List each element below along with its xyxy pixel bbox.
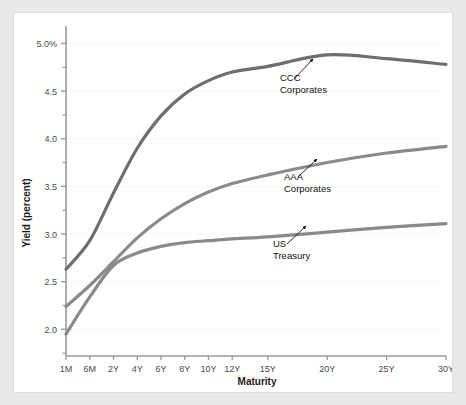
x-tick-label: 30Y [438,364,452,374]
annotation-label: Treasury [273,250,310,261]
x-tick-label: 4Y [132,364,143,374]
annotation-label: US [273,238,286,249]
series-lines [66,55,446,334]
y-tick-label: 5.0% [36,39,57,49]
y-tick-label: 4.5 [44,87,57,97]
x-axis-label: Maturity [238,376,277,387]
yield-curve-chart: 5.0%4.54.03.53.02.52.0 1M6M2Y4Y6Y8Y10Y12… [14,13,452,392]
annotation-label: Corporates [284,183,331,194]
chart-card: 5.0%4.54.03.53.02.52.0 1M6M2Y4Y6Y8Y10Y12… [14,13,452,392]
x-tick-label: 8Y [179,364,190,374]
annotations: CCCCorporatesAAACorporatesUSTreasury [273,59,331,261]
y-tick-label: 4.0 [44,134,57,144]
x-tick-label: 6Y [155,364,166,374]
x-tick-label: 1M [60,364,73,374]
screenshot-root: 5.0%4.54.03.53.02.52.0 1M6M2Y4Y6Y8Y10Y12… [0,0,466,405]
x-tick-label: 10Y [200,364,216,374]
x-tick-label: 2Y [108,364,119,374]
y-tick-labels: 5.0%4.54.03.53.02.52.0 [36,39,57,335]
x-tick-labels: 1M6M2Y4Y6Y8Y10Y12Y15Y20Y25Y30Y [60,364,452,374]
y-tick-label: 2.5 [44,277,57,287]
y-tick-label: 3.0 [44,230,57,240]
x-tick-label: 25Y [379,364,395,374]
y-tick-label: 2.0 [44,325,57,335]
series-line [66,224,446,335]
x-tick-label: 6M [83,364,96,374]
annotation-label: AAA [284,171,304,182]
x-tick-label: 12Y [224,364,240,374]
y-axis-label: Yield (percent) [21,178,32,247]
annotation-label: Corporates [280,84,327,95]
x-axis [66,356,446,360]
grid-lines [66,43,446,353]
y-tick-label: 3.5 [44,182,57,192]
x-tick-label: 15Y [260,364,276,374]
annotation-label: CCC [280,72,301,83]
x-tick-label: 20Y [319,364,335,374]
chart-title [14,2,466,13]
